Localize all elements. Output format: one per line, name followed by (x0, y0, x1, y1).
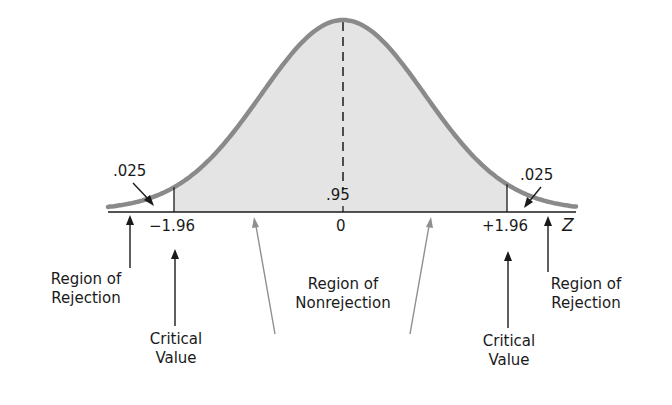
center-area-label: .95 (326, 186, 350, 205)
tick-label-positive: +1.96 (482, 217, 528, 236)
right-critical-value-label: Critical Value (469, 332, 549, 370)
nonrejection-region-fill (174, 20, 507, 212)
left-tail-area-label: .025 (113, 162, 146, 181)
nonrejection-left-arrow-icon (252, 217, 275, 334)
right-critical-line2: Value (469, 351, 549, 370)
left-critical-line1: Critical (136, 330, 216, 349)
right-critical-line1: Critical (469, 332, 549, 351)
right-rejection-label: Region of Rejection (536, 275, 636, 313)
left-rejection-line2: Rejection (36, 289, 136, 308)
right-rejection-arrow-icon (544, 216, 552, 272)
tick-label-zero: 0 (336, 217, 346, 236)
left-rejection-line1: Region of (36, 270, 136, 289)
nonrejection-right-arrow-icon (410, 217, 433, 334)
axis-label-z: Z (562, 216, 574, 235)
right-rejection-line2: Rejection (536, 294, 636, 313)
right-tail-area-label: .025 (520, 166, 553, 185)
right-critical-value-arrow-icon (504, 251, 512, 328)
left-critical-value-arrow-icon (171, 249, 179, 326)
left-rejection-label: Region of Rejection (36, 270, 136, 308)
nonrejection-line1: Region of (283, 275, 403, 294)
left-rejection-arrow-icon (126, 215, 134, 268)
nonrejection-line2: Nonrejection (283, 294, 403, 313)
nonrejection-label: Region of Nonrejection (283, 275, 403, 313)
tick-label-negative: −1.96 (149, 217, 195, 236)
left-critical-value-label: Critical Value (136, 330, 216, 368)
right-rejection-line1: Region of (536, 275, 636, 294)
left-critical-line2: Value (136, 349, 216, 368)
